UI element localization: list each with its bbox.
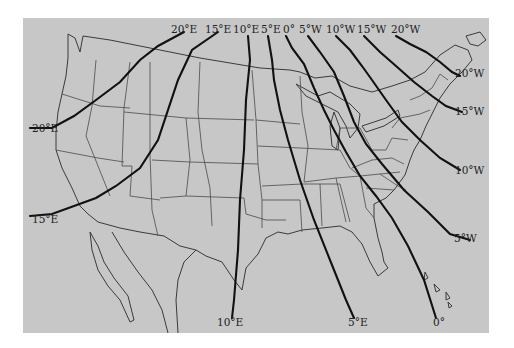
label-top-15W: 15°W bbox=[357, 23, 387, 35]
label-left-20E: 20°E bbox=[32, 122, 58, 134]
label-top-0: 0° bbox=[283, 23, 295, 35]
map-background bbox=[23, 18, 489, 333]
label-top-20W: 20°W bbox=[391, 23, 421, 35]
declination-map: 20°E 15°E 10°E 5°E 0° 5°W 10°W 15°W 20°W… bbox=[0, 0, 514, 348]
label-top-20E: 20°E bbox=[171, 23, 197, 35]
label-right-10W: 10°W bbox=[455, 164, 485, 176]
label-top-10E: 10°E bbox=[233, 23, 259, 35]
label-top-5W: 5°W bbox=[299, 23, 322, 35]
label-top-5E: 5°E bbox=[261, 23, 281, 35]
label-top-15E: 15°E bbox=[205, 23, 231, 35]
label-left-15E: 15°E bbox=[32, 213, 58, 225]
label-right-5W: 5°W bbox=[454, 232, 477, 244]
label-bottom-0: 0° bbox=[433, 316, 445, 328]
label-bottom-10E: 10°E bbox=[217, 316, 243, 328]
label-right-20W: 20°W bbox=[455, 67, 485, 79]
label-right-15W: 15°W bbox=[455, 105, 485, 117]
label-bottom-5E: 5°E bbox=[348, 316, 368, 328]
label-top-10W: 10°W bbox=[326, 23, 356, 35]
